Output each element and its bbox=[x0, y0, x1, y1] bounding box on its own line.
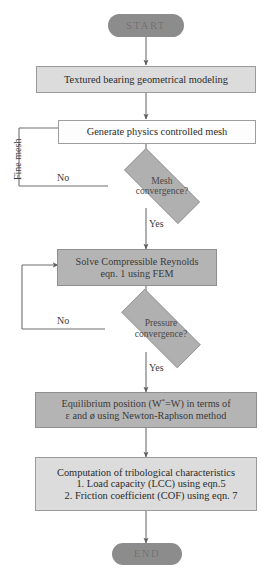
node-end[interactable]: END bbox=[112, 543, 182, 565]
node-pressure-decision-label: Pressure convergence? bbox=[105, 318, 217, 338]
edge-label-mesh-yes: Yes bbox=[149, 218, 164, 229]
node-geometry-label: Textured bearing geometrical modeling bbox=[64, 74, 228, 86]
node-equilibrium-label: Equilibrium position (W*=W) in terms of … bbox=[36, 398, 256, 421]
node-reynolds-label: Solve Compressible Reynolds eqn. 1 using… bbox=[58, 256, 216, 279]
edge-label-pressure-no: No bbox=[57, 315, 69, 326]
node-mesh-decision[interactable]: Mesh convergence? bbox=[108, 164, 216, 208]
edge-label-mesh-no: No bbox=[57, 172, 69, 183]
node-computation[interactable]: Computation of tribological characterist… bbox=[35, 457, 257, 511]
node-start-label: START bbox=[126, 20, 166, 32]
edge-label-fine-mesh: Fine mesh bbox=[12, 139, 23, 180]
node-equilibrium-line1: Equilibrium position (W*=W) in terms of bbox=[39, 398, 253, 410]
node-reynolds[interactable]: Solve Compressible Reynolds eqn. 1 using… bbox=[57, 249, 217, 286]
edge-label-pressure-yes: Yes bbox=[149, 362, 164, 373]
node-geometry[interactable]: Textured bearing geometrical modeling bbox=[36, 66, 256, 93]
node-mesh-label: Generate physics controlled mesh bbox=[87, 126, 228, 138]
node-pressure-decision[interactable]: Pressure convergence? bbox=[105, 305, 217, 352]
node-mesh[interactable]: Generate physics controlled mesh bbox=[58, 120, 256, 144]
node-mesh-decision-label: Mesh convergence? bbox=[108, 176, 216, 196]
node-computation-label: Computation of tribological characterist… bbox=[36, 467, 256, 502]
flowchart-canvas: START Textured bearing geometrical model… bbox=[0, 0, 276, 582]
node-equilibrium[interactable]: Equilibrium position (W*=W) in terms of … bbox=[35, 392, 257, 428]
node-start[interactable]: START bbox=[108, 14, 184, 37]
node-end-label: END bbox=[134, 548, 160, 560]
